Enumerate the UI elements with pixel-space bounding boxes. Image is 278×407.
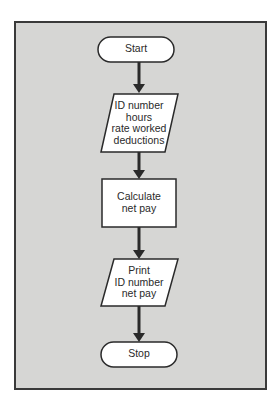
output-parallelogram-shape [101, 259, 178, 306]
arrow-input-to-process [133, 152, 145, 179]
stop-terminator-shape [101, 342, 177, 367]
arrow-process-to-output [133, 227, 145, 259]
arrow-output-to-stop [133, 306, 145, 342]
flowchart-canvas [0, 0, 278, 407]
start-terminator-shape [98, 37, 174, 62]
process-rectangle-shape [102, 179, 176, 227]
arrow-start-to-input [133, 62, 145, 93]
input-parallelogram-shape [101, 94, 178, 152]
